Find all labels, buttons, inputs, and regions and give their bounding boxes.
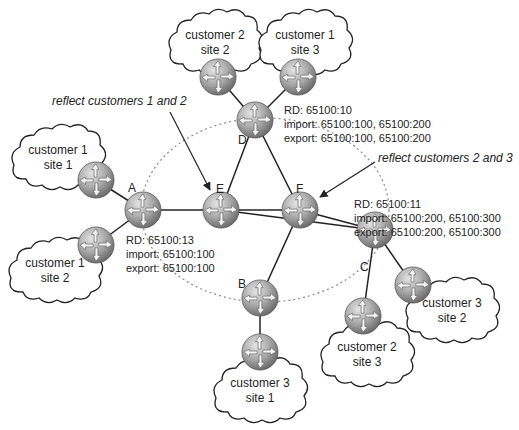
cloud-label: site 1: [44, 158, 73, 172]
router-icon: [242, 334, 278, 370]
router-icon: [200, 59, 236, 95]
router-label-E: E: [216, 182, 224, 196]
router-icon: [282, 192, 318, 228]
router-icon: [280, 59, 316, 95]
cloud-label: site 1: [246, 391, 275, 405]
router-icon: [242, 280, 278, 316]
cloud-label: site 2: [438, 311, 467, 325]
router-label-A: A: [128, 181, 136, 195]
svg-text:RD: 65100:13: RD: 65100:13: [126, 234, 194, 246]
cloud-label: site 3: [353, 355, 382, 369]
vrf-label-C: RD: 65100:11 import: 65100:200, 65100:30…: [354, 198, 501, 238]
router-icon: [125, 192, 161, 228]
svg-text:export: 65100:100, 65100:200: export: 65100:100, 65100:200: [284, 132, 431, 144]
cloud-label: site 2: [41, 271, 70, 285]
svg-text:import: 65100:200, 65100:300: import: 65100:200, 65100:300: [354, 212, 501, 224]
cloud-label: site 3: [291, 43, 320, 57]
cloud-label: customer 2: [185, 28, 245, 42]
cloud-label: customer 1: [28, 143, 88, 157]
cloud-label: customer 1: [275, 28, 335, 42]
router-icon: [395, 267, 431, 303]
svg-text:import: 65100:100: import: 65100:100: [126, 248, 215, 260]
cloud-label: customer 3: [230, 376, 290, 390]
router-icon: [78, 162, 114, 198]
router-label-F: F: [296, 182, 303, 196]
network-diagram: customer 2site 2customer 1site 3customer…: [0, 0, 519, 430]
cloud-label: customer 1: [25, 256, 85, 270]
router-icon: [345, 298, 381, 334]
svg-text:export: 65100:200, 65100:300: export: 65100:200, 65100:300: [354, 226, 501, 238]
svg-text:RD: 65100:10: RD: 65100:10: [284, 104, 352, 116]
router-label-D: D: [238, 133, 247, 147]
router-icon: [203, 192, 239, 228]
router-label-C: C: [360, 260, 369, 274]
reflect12-arrow: [170, 112, 210, 190]
reflect12-annotation: reflect customers 1 and 2: [52, 94, 187, 108]
cloud-label: customer 3: [422, 296, 482, 310]
svg-text:export: 65100:100: export: 65100:100: [126, 262, 215, 274]
cloud-label: site 2: [201, 43, 230, 57]
vrf-label-A: RD: 65100:13 import: 65100:100 export: 6…: [126, 234, 215, 274]
vrf-label-D: RD: 65100:10 import: 65100:100, 65100:20…: [284, 104, 431, 144]
cloud-label: customer 2: [337, 340, 397, 354]
svg-text:RD: 65100:11: RD: 65100:11: [354, 198, 421, 210]
router-icon: [78, 227, 114, 263]
reflect23-annotation: reflect customers 2 and 3: [378, 151, 513, 165]
router-label-B: B: [238, 277, 246, 291]
reflect23-arrow: [320, 162, 375, 197]
svg-text:import: 65100:100, 65100:200: import: 65100:100, 65100:200: [284, 118, 431, 130]
